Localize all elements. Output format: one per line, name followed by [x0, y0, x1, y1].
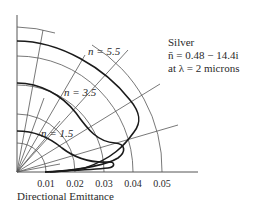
tick-labels: 0.01 0.02 0.03 0.04 0.05	[37, 178, 171, 189]
annotation-index: n̄ = 0.48 − 14.4i	[168, 49, 238, 61]
label-n-3.5: n = 3.5	[64, 86, 97, 98]
ray-80	[17, 30, 43, 172]
label-n-5.5: n = 5.5	[88, 45, 121, 57]
annotation-wavelength: at λ = 2 microns	[168, 62, 239, 74]
arc-0.05	[92, 45, 162, 172]
tick-0.02: 0.02	[66, 178, 84, 189]
ray-60	[17, 55, 85, 172]
tick-0.03: 0.03	[95, 178, 113, 189]
arc-0.04	[17, 56, 133, 172]
arc-0.05-top	[17, 27, 55, 33]
annotation: Silver n̄ = 0.48 − 14.4i at λ = 2 micron…	[168, 36, 239, 74]
tick-0.04: 0.04	[124, 178, 142, 189]
tick-0.05: 0.05	[153, 178, 171, 189]
polar-diagram: n = 5.5 n = 3.5 n = 1.5 Silver n̄ = 0.48…	[0, 0, 258, 206]
x-axis-label: Directional Emittance	[17, 190, 114, 202]
annotation-material: Silver	[168, 36, 195, 48]
tick-0.01: 0.01	[37, 178, 55, 189]
label-n-1.5: n = 1.5	[41, 127, 74, 139]
